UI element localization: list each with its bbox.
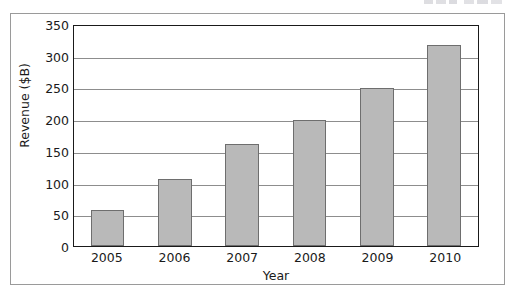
page-header-scan-artifact	[424, 0, 502, 4]
x-tick-label-2006: 2006	[141, 250, 209, 265]
y-tick-label: 100	[45, 179, 69, 192]
y-tick-label: 250	[45, 83, 69, 96]
bar-slot-2010	[411, 26, 478, 246]
x-tick-label-2008: 2008	[276, 250, 344, 265]
bar-slot-2006	[141, 26, 208, 246]
y-tick-label: 300	[45, 52, 69, 65]
y-axis-title: Revenue ($B)	[17, 46, 32, 166]
x-tick-label-2009: 2009	[344, 250, 412, 265]
y-axis-tick-labels: 350 300 250 200 150 100 50 0	[27, 25, 69, 247]
bar-slot-2008	[276, 26, 343, 246]
y-tick-label: 150	[45, 147, 69, 160]
bar-slot-2005	[74, 26, 141, 246]
y-tick-label: 50	[53, 210, 69, 223]
bar-2009[interactable]	[360, 88, 394, 246]
x-tick-label-2010: 2010	[411, 250, 479, 265]
x-tick-label-2007: 2007	[208, 250, 276, 265]
bar-2006[interactable]	[158, 179, 192, 246]
bars-layer	[74, 26, 478, 246]
y-tick-label: 350	[45, 20, 69, 33]
chart-figure-frame: 350 300 250 200 150 100 50 0 Revenue ($B…	[10, 13, 505, 285]
x-tick-label-2005: 2005	[73, 250, 141, 265]
bar-2010[interactable]	[427, 45, 461, 246]
x-axis-title: Year	[73, 268, 479, 283]
bar-slot-2009	[343, 26, 410, 246]
y-tick-label: 0	[61, 242, 69, 255]
plot-area	[73, 25, 479, 247]
bar-slot-2007	[209, 26, 276, 246]
x-axis-tick-labels: 2005 2006 2007 2008 2009 2010	[73, 250, 479, 265]
y-tick-label: 200	[45, 115, 69, 128]
bar-2008[interactable]	[293, 120, 327, 246]
bar-2005[interactable]	[91, 210, 125, 246]
bar-2007[interactable]	[225, 144, 259, 246]
